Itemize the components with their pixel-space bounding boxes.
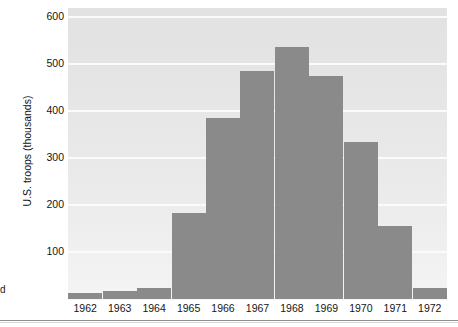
x-tick-label: 1966 <box>206 302 240 314</box>
y-axis-tick-labels: 100200300400500600 <box>20 0 64 327</box>
bar-chart-figure: d U.S. troops (thousands) 10020030040050… <box>0 0 458 327</box>
x-tick-label: 1970 <box>344 302 378 314</box>
plot-area <box>68 8 447 300</box>
y-tick-label: 300 <box>24 152 64 163</box>
bar-slot <box>275 8 309 299</box>
x-tick-label: 1967 <box>240 302 274 314</box>
bar-slot <box>172 8 206 299</box>
bottom-rule-secondary <box>0 322 458 323</box>
bar <box>309 76 343 299</box>
bar-slot <box>240 8 274 299</box>
x-tick-label: 1972 <box>413 302 447 314</box>
bar-slot <box>68 8 102 299</box>
bar <box>206 118 240 299</box>
x-tick-label: 1962 <box>68 302 102 314</box>
bar-slot <box>103 8 137 299</box>
bar <box>240 71 274 299</box>
x-tick-label: 1965 <box>172 302 206 314</box>
bar-slot <box>344 8 378 299</box>
bar-slot <box>206 8 240 299</box>
bar <box>137 288 171 299</box>
y-tick-label: 500 <box>24 58 64 69</box>
bar <box>103 291 137 299</box>
bar <box>344 142 378 299</box>
y-tick-label: 400 <box>24 105 64 116</box>
bar <box>68 293 102 299</box>
bar-series <box>68 8 447 299</box>
y-tick-label: 100 <box>24 246 64 257</box>
bar <box>413 288 447 299</box>
bar-slot <box>309 8 343 299</box>
x-tick-label: 1971 <box>378 302 412 314</box>
y-tick-label: 200 <box>24 199 64 210</box>
bar-slot <box>413 8 447 299</box>
x-tick-label: 1964 <box>137 302 171 314</box>
x-axis-tick-labels: 1962196319641965196619671968196919701971… <box>68 302 447 318</box>
bottom-rule <box>0 320 458 321</box>
bar <box>378 226 412 299</box>
x-tick-label: 1969 <box>309 302 343 314</box>
bar <box>275 47 309 299</box>
x-tick-label: 1968 <box>275 302 309 314</box>
bar <box>172 213 206 299</box>
x-tick-label: 1963 <box>103 302 137 314</box>
bar-slot <box>137 8 171 299</box>
edge-text-fragment: d <box>0 284 10 296</box>
bar-slot <box>378 8 412 299</box>
y-tick-label: 600 <box>24 11 64 22</box>
